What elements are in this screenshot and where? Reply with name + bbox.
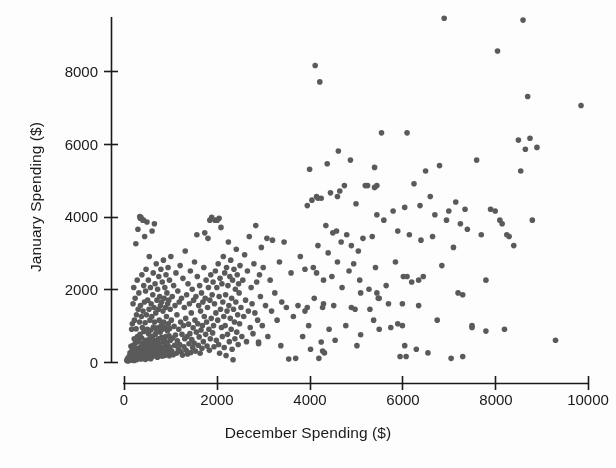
y-tick-label-2000: 2000: [28, 281, 98, 298]
x-tick-label-0: 0: [84, 391, 164, 408]
y-tick-label-0: 0: [28, 354, 98, 371]
y-tick-label-8000: 8000: [28, 63, 98, 80]
scatter-plot-figure: December Spending ($) January Spending (…: [0, 0, 616, 468]
x-tick-label-2000: 2000: [177, 391, 257, 408]
x-tick-label-8000: 8000: [456, 391, 536, 408]
y-tick-label-6000: 6000: [28, 136, 98, 153]
y-tick-label-4000: 4000: [28, 208, 98, 225]
x-tick-label-4000: 4000: [270, 391, 350, 408]
x-tick-label-10000: 10000: [548, 391, 616, 408]
x-tick-label-6000: 6000: [363, 391, 443, 408]
x-axis-label: December Spending ($): [0, 424, 616, 442]
